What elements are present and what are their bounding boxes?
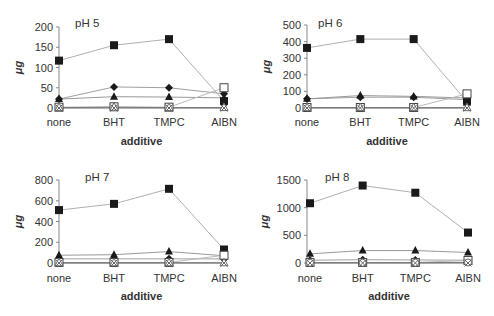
data-point-filled-diamond bbox=[165, 84, 173, 92]
data-point-filled-diamond bbox=[110, 83, 118, 91]
y-tick-label: 200 bbox=[283, 69, 301, 81]
series-line-filled-triangle bbox=[59, 252, 224, 256]
panel-ph-5: 050100150200noneBHTTMPCAIBNpH 5additiveμ… bbox=[12, 17, 237, 147]
x-axis-label: additive bbox=[121, 135, 163, 147]
series-line-filled-triangle bbox=[310, 251, 468, 254]
data-point-filled-square bbox=[165, 35, 173, 43]
x-tick-label: BHT bbox=[103, 116, 125, 128]
data-point-filled-square bbox=[411, 189, 419, 197]
data-point-filled-square bbox=[110, 200, 118, 208]
data-point-filled-triangle bbox=[165, 93, 173, 101]
data-point-filled-square bbox=[165, 185, 173, 193]
data-point-filled-square bbox=[306, 199, 314, 207]
y-tick-label: 0 bbox=[295, 102, 301, 114]
x-tick-label: TMPC bbox=[398, 116, 429, 128]
y-tick-label: 100 bbox=[35, 62, 53, 74]
y-tick-label: 150 bbox=[35, 41, 53, 53]
data-point-filled-triangle bbox=[464, 248, 472, 256]
x-axis-label: additive bbox=[366, 135, 408, 147]
x-axis-label: additive bbox=[121, 290, 163, 302]
panel-title: pH 5 bbox=[75, 17, 99, 29]
y-tick-label: 1500 bbox=[277, 174, 301, 186]
x-tick-label: none bbox=[47, 272, 71, 284]
y-axis-label: μg bbox=[12, 215, 24, 230]
x-tick-label: TMPC bbox=[400, 272, 431, 284]
x-tick-label: TMPC bbox=[153, 116, 184, 128]
y-tick-label: 200 bbox=[35, 236, 53, 248]
data-point-filled-triangle bbox=[411, 246, 419, 254]
data-point-filled-square bbox=[110, 41, 118, 49]
y-tick-label: 400 bbox=[283, 36, 301, 48]
data-point-filled-square bbox=[55, 206, 63, 214]
y-tick-label: 100 bbox=[283, 85, 301, 97]
y-tick-label: 500 bbox=[283, 19, 301, 31]
y-axis-label: μg bbox=[12, 61, 24, 76]
x-tick-label: BHT bbox=[349, 116, 371, 128]
y-tick-label: 0 bbox=[47, 102, 53, 114]
data-point-filled-triangle bbox=[110, 92, 118, 100]
data-point-filled-square bbox=[55, 57, 63, 65]
data-point-filled-square bbox=[464, 229, 472, 237]
series-line-filled-square bbox=[59, 39, 224, 101]
x-tick-label: AIBN bbox=[211, 272, 237, 284]
data-point-open-square bbox=[220, 84, 228, 92]
y-tick-label: 800 bbox=[35, 174, 53, 186]
y-tick-label: 300 bbox=[283, 52, 301, 64]
data-point-filled-square bbox=[359, 182, 367, 190]
data-point-filled-triangle bbox=[165, 247, 173, 255]
panel-title: pH 6 bbox=[318, 17, 342, 29]
panel-title: pH 7 bbox=[85, 171, 109, 183]
x-tick-label: BHT bbox=[103, 272, 125, 284]
x-tick-label: none bbox=[295, 116, 319, 128]
panel-ph-8: 050010001500noneBHTTMPCAIBNpH 8additiveμ… bbox=[258, 171, 481, 302]
figure: 050100150200noneBHTTMPCAIBNpH 5additiveμ… bbox=[0, 0, 494, 316]
y-axis-label: μg bbox=[258, 215, 270, 230]
y-tick-label: 600 bbox=[35, 195, 53, 207]
series-line-filled-square bbox=[307, 39, 467, 102]
x-tick-label: AIBN bbox=[211, 116, 237, 128]
panel-ph-6: 0100200300400500noneBHTTMPCAIBNpH 6addit… bbox=[260, 17, 480, 147]
y-tick-label: 1000 bbox=[277, 202, 301, 214]
x-tick-label: BHT bbox=[352, 272, 374, 284]
x-tick-label: none bbox=[298, 272, 322, 284]
panel-ph-7: 0200400600800noneBHTTMPCAIBNpH 7additive… bbox=[12, 171, 237, 302]
data-point-filled-square bbox=[356, 35, 364, 43]
x-tick-label: TMPC bbox=[153, 272, 184, 284]
y-tick-label: 200 bbox=[35, 21, 53, 33]
panel-title: pH 8 bbox=[325, 171, 349, 183]
x-axis-label: additive bbox=[368, 290, 410, 302]
x-tick-label: AIBN bbox=[455, 272, 481, 284]
y-axis-label: μg bbox=[260, 60, 272, 75]
data-point-filled-triangle bbox=[359, 246, 367, 254]
x-tick-label: none bbox=[47, 116, 71, 128]
y-tick-label: 0 bbox=[295, 257, 301, 269]
data-point-filled-square bbox=[410, 35, 418, 43]
y-tick-label: 500 bbox=[283, 229, 301, 241]
x-tick-label: AIBN bbox=[454, 116, 480, 128]
y-tick-label: 0 bbox=[47, 257, 53, 269]
y-tick-label: 400 bbox=[35, 216, 53, 228]
data-point-filled-triangle bbox=[356, 91, 364, 99]
data-point-filled-triangle bbox=[410, 92, 418, 100]
y-tick-label: 50 bbox=[41, 82, 53, 94]
data-point-filled-square bbox=[303, 44, 311, 52]
series-line-filled-diamond bbox=[310, 260, 468, 261]
series-line-filled-square bbox=[310, 186, 468, 233]
data-point-open-square bbox=[463, 90, 471, 98]
series-line-filled-square bbox=[59, 189, 224, 250]
